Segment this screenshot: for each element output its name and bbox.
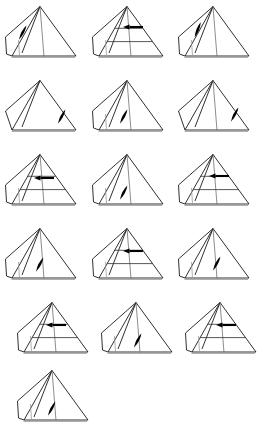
pyramid-left-panel-edge <box>179 155 214 205</box>
pyramid-left-panel-edge <box>102 303 137 353</box>
pyramid-front-face-edge <box>99 7 163 57</box>
pyramid-front-face-edge <box>192 303 256 353</box>
pyramid-left-panel-edge <box>18 371 53 421</box>
pyramid-front-face-edge <box>99 155 163 205</box>
pyramid-inner-ridge-edge <box>52 371 56 421</box>
pyramid-left-panel-edge <box>6 155 41 205</box>
pyramid-left-panel-edge <box>179 229 214 279</box>
pyramid-diagram <box>177 152 257 216</box>
pyramid-diagram <box>91 4 171 68</box>
pyramid-front-face-edge <box>12 81 76 131</box>
pyramid-figure-14 <box>100 300 180 364</box>
pyramid-front-face-edge <box>12 7 76 57</box>
pyramid-inner-ridge-edge <box>40 229 44 279</box>
pyramid-figure-11 <box>91 226 171 290</box>
pyramid-diagram <box>16 368 96 432</box>
pyramid-figure-15 <box>184 300 264 364</box>
pyramid-ridge-edge <box>34 371 52 418</box>
pyramid-inner-ridge-edge <box>52 303 56 353</box>
pyramid-figure-12 <box>177 226 257 290</box>
pyramid-figure-4 <box>4 78 84 142</box>
pyramid-inner-ridge-edge <box>213 7 217 57</box>
pyramid-figure-3 <box>177 4 257 68</box>
pyramid-diagram <box>177 78 257 142</box>
pyramid-ridge-edge <box>109 81 127 128</box>
pyramid-left-back-edge <box>179 81 214 131</box>
pyramid-inner-ridge-edge <box>136 303 140 353</box>
pyramid-ridge-edge <box>118 303 136 350</box>
pyramid-left-panel-edge <box>93 7 128 57</box>
pyramid-diagram <box>177 4 257 68</box>
pyramid-inner-ridge-edge <box>213 81 217 131</box>
pyramid-diagram <box>184 300 264 364</box>
pyramid-left-panel-edge <box>186 303 221 353</box>
pyramid-inner-ridge-edge <box>127 81 131 131</box>
pyramid-diagram <box>4 152 84 216</box>
pyramid-figure-1 <box>4 4 84 68</box>
pyramid-left-panel-edge <box>6 229 41 279</box>
pyramid-figure-7 <box>4 152 84 216</box>
pyramid-ridge-edge <box>202 303 220 350</box>
pyramid-figure-2 <box>91 4 171 68</box>
pyramid-diagram <box>100 300 180 364</box>
pyramid-left-panel-edge <box>93 81 128 131</box>
pyramid-diagram <box>91 78 171 142</box>
pyramid-figure-10 <box>4 226 84 290</box>
pyramid-ridge-edge <box>22 81 40 128</box>
pyramid-front-face-edge <box>99 81 163 131</box>
pyramid-front-face-edge <box>12 155 76 205</box>
direction-arrow-diagonal-down-left <box>213 257 221 271</box>
pyramid-front-face-edge <box>108 303 172 353</box>
pyramid-diagram <box>4 226 84 290</box>
pyramid-inner-ridge-edge <box>127 7 131 57</box>
pyramid-front-face-edge <box>99 229 163 279</box>
pyramid-diagram <box>4 4 84 68</box>
pyramid-ridge-edge <box>195 81 213 128</box>
direction-arrow-horizontal-left <box>46 322 66 327</box>
pyramid-front-face-edge <box>185 7 249 57</box>
pyramid-figure-grid <box>0 0 269 432</box>
pyramid-figure-16 <box>16 368 96 432</box>
pyramid-front-face-edge <box>24 303 88 353</box>
pyramid-ridge-edge <box>195 155 213 202</box>
pyramid-left-panel-edge <box>93 229 128 279</box>
pyramid-diagram <box>4 78 84 142</box>
pyramid-diagram <box>91 152 171 216</box>
pyramid-inner-ridge-edge <box>220 303 224 353</box>
pyramid-figure-13 <box>16 300 96 364</box>
pyramid-ridge-edge <box>109 7 127 54</box>
pyramid-front-face-edge <box>185 155 249 205</box>
pyramid-diagram <box>177 226 257 290</box>
pyramid-figure-5 <box>91 78 171 142</box>
pyramid-inner-ridge-edge <box>40 7 44 57</box>
pyramid-diagram <box>16 300 96 364</box>
pyramid-inner-ridge-edge <box>213 229 217 279</box>
direction-arrow-diagonal-down-left <box>120 186 128 200</box>
pyramid-diagram <box>91 226 171 290</box>
pyramid-inner-ridge-edge <box>213 155 217 205</box>
direction-arrow-diagonal-down-left <box>58 110 66 124</box>
pyramid-left-panel-edge <box>18 303 53 353</box>
direction-arrow-horizontal-left <box>123 248 143 253</box>
pyramid-figure-9 <box>177 152 257 216</box>
pyramid-ridge-edge <box>195 229 213 276</box>
direction-arrow-diagonal-down-left <box>36 258 44 272</box>
direction-arrow-diagonal-down-left <box>120 110 128 124</box>
pyramid-front-face-edge <box>12 229 76 279</box>
pyramid-figure-8 <box>91 152 171 216</box>
direction-arrow-horizontal-left <box>216 322 236 327</box>
pyramid-front-face-edge <box>24 371 88 421</box>
pyramid-left-panel-edge <box>179 7 214 57</box>
pyramid-inner-ridge-edge <box>40 155 44 205</box>
pyramid-front-face-edge <box>185 81 249 131</box>
direction-arrow-diagonal-down-left <box>48 402 56 416</box>
direction-arrow-diagonal-down-left <box>134 334 142 348</box>
pyramid-figure-6 <box>177 78 257 142</box>
direction-arrow-horizontal-left <box>123 24 143 29</box>
pyramid-ridge-edge <box>109 229 127 276</box>
pyramid-left-back-edge <box>6 81 41 131</box>
direction-arrow-horizontal-left <box>209 173 229 178</box>
pyramid-inner-ridge-edge <box>127 229 131 279</box>
pyramid-front-face-edge <box>185 229 249 279</box>
pyramid-inner-ridge-edge <box>127 155 131 205</box>
